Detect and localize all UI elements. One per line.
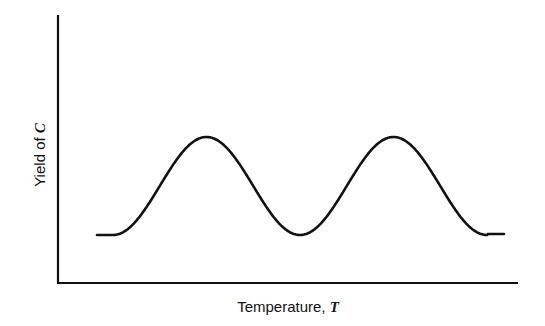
- x-axis-label: Temperature, T: [237, 298, 340, 315]
- chart: Yield of C Temperature, T: [0, 0, 545, 326]
- y-axis-label-text: Yield of: [31, 137, 48, 187]
- x-axis-label-symbol: T: [330, 299, 340, 315]
- y-axis-label: Yield of C: [31, 122, 48, 187]
- svg-text:Yield of C: Yield of C: [31, 122, 48, 187]
- y-axis-label-symbol: C: [32, 122, 48, 133]
- yield-curve: [97, 137, 504, 235]
- x-axis-label-text: Temperature,: [237, 298, 325, 315]
